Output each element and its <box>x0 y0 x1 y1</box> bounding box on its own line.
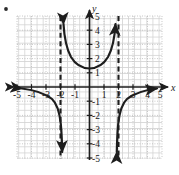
y-tick-label: 1 <box>95 68 100 78</box>
graph-figure: -5 -4 -3 -2 -1 1 2 3 4 5 5 4 3 2 1 -1 -2… <box>0 0 179 175</box>
x-tick-label: -5 <box>13 90 21 100</box>
x-axis-label: x <box>170 82 176 93</box>
y-tick-label: -1 <box>92 97 100 107</box>
y-tick-label: 3 <box>95 40 100 50</box>
y-tick-label: 4 <box>95 26 100 36</box>
bullet-marker <box>4 7 8 11</box>
y-tick-label: -3 <box>92 125 100 135</box>
y-axis-label: y <box>91 3 97 14</box>
x-tick-label: 5 <box>158 90 163 100</box>
y-tick-label: -5 <box>92 154 100 164</box>
x-tick-label: -1 <box>71 90 79 100</box>
x-tick-label: 1 <box>102 90 107 100</box>
y-tick-label: -2 <box>92 111 100 121</box>
y-tick-label: -4 <box>92 139 100 149</box>
y-tick-label: 2 <box>95 54 100 64</box>
